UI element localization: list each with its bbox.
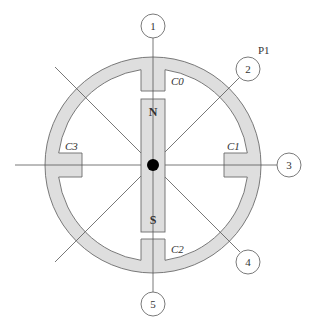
- coil-c2-label: C2: [171, 243, 184, 255]
- south-pole-label: S: [150, 213, 157, 227]
- callout-3-label: 3: [286, 159, 292, 171]
- coil-c0-label: C0: [171, 75, 184, 87]
- point-p1-label: P1: [258, 44, 270, 56]
- coil-c1-label: C1: [227, 140, 240, 152]
- callout-2-label: 2: [245, 63, 251, 75]
- coil-c3-label: C3: [65, 140, 78, 152]
- callout-1-label: 1: [150, 20, 156, 32]
- north-pole-label: N: [149, 105, 158, 119]
- callout-5-label: 5: [150, 298, 156, 310]
- callout-4-label: 4: [245, 256, 251, 268]
- stepper-motor-diagram: N S 1 2 3 4 5 C0 C1 C2 C3 P1: [0, 0, 316, 333]
- pivot-point: [147, 159, 159, 171]
